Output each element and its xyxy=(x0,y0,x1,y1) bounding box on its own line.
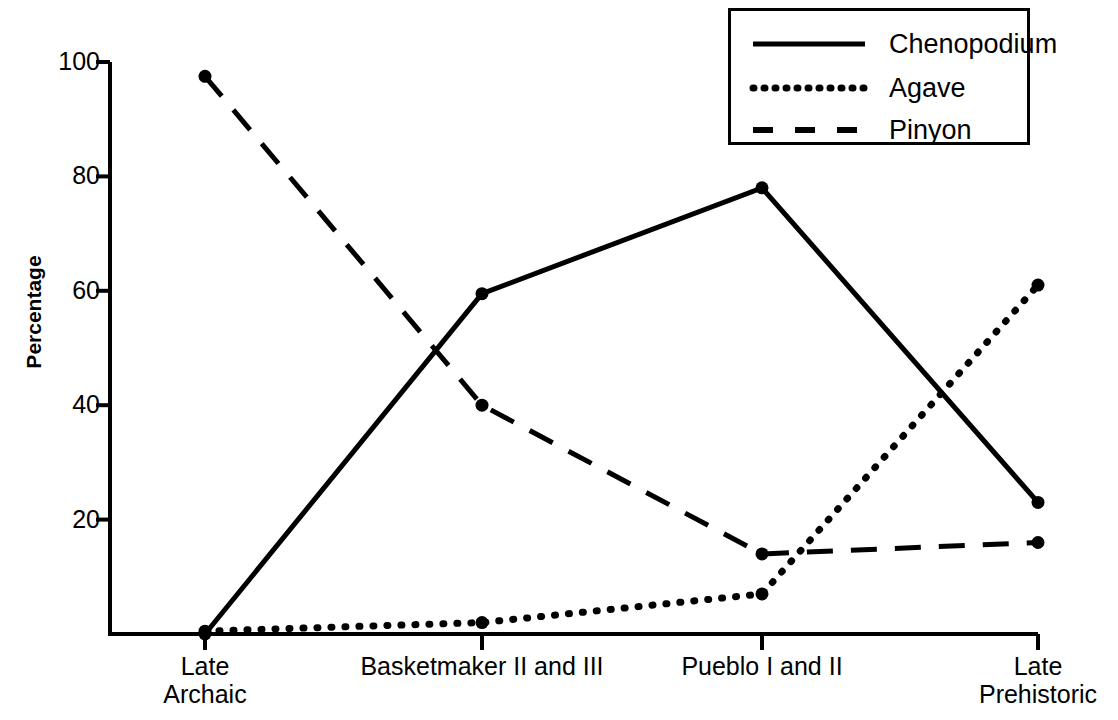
y-tick-label: 40 xyxy=(38,392,100,417)
legend-entry-chenopodium: Chenopodium xyxy=(749,29,1057,59)
chart-figure: Percentage 20 40 60 80 100 LateArchaic B… xyxy=(0,0,1118,720)
x-tick-label: Basketmaker II and III xyxy=(332,652,632,680)
legend-entry-agave: Agave xyxy=(749,73,966,103)
x-tick-label: LatePrehistoric xyxy=(888,652,1118,708)
legend-entry-pinyon: Pinyon xyxy=(749,115,972,145)
y-tick-label: 20 xyxy=(38,507,100,532)
legend-line-sample-dotted xyxy=(749,78,869,98)
y-axis-title: Percentage xyxy=(22,252,46,372)
y-tick-label: 60 xyxy=(38,278,100,303)
legend-entry-label: Pinyon xyxy=(889,115,972,145)
x-tick-label: LateArchaic xyxy=(55,652,355,708)
x-tick-label: Pueblo I and II xyxy=(612,652,912,680)
legend-entry-label: Agave xyxy=(889,73,966,103)
legend-entry-label: Chenopodium xyxy=(889,29,1057,59)
legend-line-sample-dashed xyxy=(749,120,869,140)
legend-line-sample-solid xyxy=(749,34,869,54)
y-tick-label: 100 xyxy=(38,49,100,74)
legend: Chenopodium Agave Pinyon xyxy=(728,8,1030,145)
y-tick-label: 80 xyxy=(38,163,100,188)
